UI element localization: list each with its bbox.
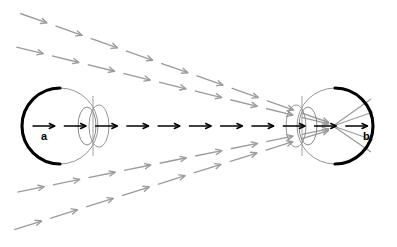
point-label-a: a [41, 130, 48, 142]
ray-top-1 [20, 13, 329, 123]
ray-top-2 [16, 47, 328, 125]
focal-crossing-point-exit-ray-2 [333, 112, 373, 126]
incoming-ray-bundle-layer [14, 13, 373, 229]
optics-diagram-canvas: ab [0, 0, 397, 247]
ray-bottom-1 [17, 127, 328, 192]
point-label-b: b [363, 130, 370, 142]
ray-bottom-2 [14, 130, 328, 230]
ray-diagram-figure: ab [0, 0, 397, 247]
